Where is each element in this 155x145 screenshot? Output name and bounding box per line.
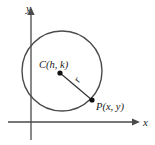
diagram-canvas: x y r C(h, k) P(x, y) [0,0,155,145]
x-axis: x [8,116,148,128]
center-point-dot [57,70,62,75]
circle-coordinate-diagram: x y r C(h, k) P(x, y) [0,0,155,145]
outer-point-dot [89,97,94,102]
y-axis-label: y [25,2,31,14]
center-point-label: C(h, k) [39,59,69,71]
x-axis-label: x [142,116,148,128]
outer-point-label: P(x, y) [95,101,124,113]
radius-label: r [71,75,83,84]
y-axis: y [25,2,35,140]
x-axis-arrowhead [132,118,140,125]
